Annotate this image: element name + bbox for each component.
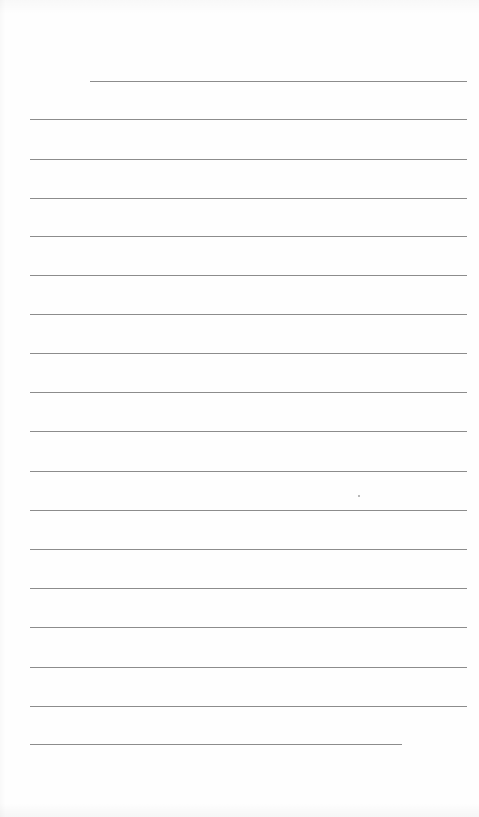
ruled-line [90,81,467,82]
ruled-line [30,353,467,354]
ruled-line [30,510,467,511]
ruled-line [30,549,467,550]
ruled-line [30,275,467,276]
paper-speck [358,495,360,497]
page-top-shadow [0,0,479,14]
ruled-line [30,706,467,707]
ruled-line [30,588,467,589]
ruled-line [30,627,467,628]
ruled-line [30,667,467,668]
ruled-line [30,471,467,472]
page-left-edge [0,0,6,817]
ruled-line [30,392,467,393]
ruled-line [30,744,402,745]
ruled-line [30,314,467,315]
page-bottom-shadow [0,803,479,817]
ruled-line [30,198,467,199]
ruled-line [30,431,467,432]
ruled-line [30,236,467,237]
lined-page [0,0,479,817]
ruled-line [30,159,467,160]
ruled-line [30,119,467,120]
